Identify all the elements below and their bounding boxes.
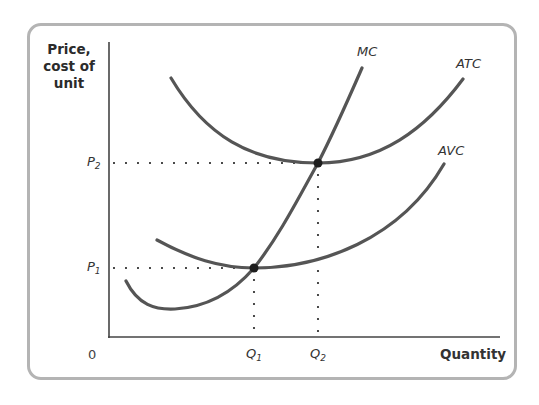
p2-symbol: P — [87, 154, 95, 169]
q1-symbol: Q — [246, 346, 256, 361]
p1-symbol: P — [87, 259, 95, 274]
q2-symbol: Q — [310, 346, 320, 361]
avc-curve — [157, 164, 444, 268]
min-avc-point — [250, 264, 259, 273]
atc-curve — [171, 78, 463, 163]
q1-subscript: 1 — [256, 353, 262, 363]
mc-label: MC — [357, 44, 377, 59]
x-axis-label: Quantity — [440, 346, 506, 362]
y-axis-label: Price, cost of unit — [40, 41, 98, 92]
origin-label: 0 — [88, 347, 96, 362]
mc-curve — [126, 68, 362, 309]
q2-label: Q2 — [310, 346, 326, 363]
q2-subscript: 2 — [320, 353, 326, 363]
q1-label: Q1 — [246, 346, 262, 363]
guide-lines — [114, 163, 318, 333]
p1-subscript: 1 — [95, 266, 101, 276]
atc-label: ATC — [456, 56, 481, 71]
min-atc-point — [314, 159, 323, 168]
p1-label: P1 — [87, 259, 101, 276]
p2-subscript: 2 — [95, 161, 101, 171]
avc-label: AVC — [438, 143, 464, 158]
p2-label: P2 — [87, 154, 101, 171]
